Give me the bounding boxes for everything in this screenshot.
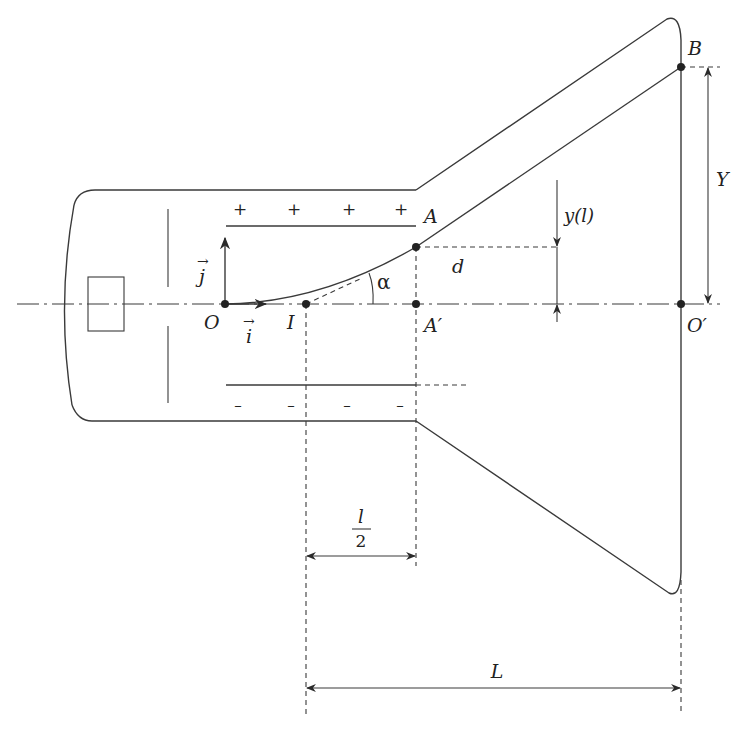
point-A-prime [412,300,420,308]
label-O: O [204,311,220,333]
tube-left-end [64,205,74,405]
straight-trajectory [416,67,681,247]
negative-signs: – – – – [234,396,404,414]
label-alpha: α [377,270,391,294]
label-d: d [452,255,464,277]
point-O-prime [677,300,685,308]
label-B: B [687,37,702,59]
label-A-prime: A′ [422,314,443,336]
minus-sign: – [343,396,351,414]
minus-sign: – [234,396,242,414]
label-I: I [286,311,295,333]
plus-sign: + [287,199,301,219]
minus-sign: – [396,396,404,414]
point-O [221,300,229,308]
label-y-l: y(l) [563,205,594,226]
angle-arc [369,273,373,304]
plus-sign: + [233,199,247,219]
point-A [412,243,420,251]
label-L: L [490,660,504,682]
funnel-top [416,18,681,190]
tube-neck-bottom [72,405,416,421]
label-half-length-numerator: l [358,506,364,527]
plus-sign: + [342,199,356,219]
minus-sign: – [287,396,295,414]
label-half-length-denominator: 2 [356,531,367,551]
point-B [677,63,685,71]
plus-sign: + [394,199,408,219]
label-Y: Y [716,168,731,190]
positive-signs: + + + + [233,199,408,219]
tube-outline [64,18,681,594]
funnel-bottom [416,421,681,594]
vector-arrow-j-icon: → [197,253,209,269]
vector-arrow-i-icon: → [243,313,255,329]
crt-deflection-diagram: + + + + – – – – O I A A′ B O′ j → [0,0,743,736]
label-O-prime: O′ [687,314,708,336]
point-I [302,300,310,308]
label-A: A [422,205,438,227]
